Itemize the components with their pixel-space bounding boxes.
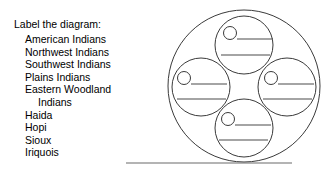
- inner-circle-top: [215, 16, 273, 74]
- inner-circle-group-left: [172, 58, 230, 116]
- diagram-panel: [0, 0, 335, 178]
- inner-circle-group-bottom: [215, 99, 273, 157]
- concept-map-diagram: [0, 0, 335, 178]
- inner-circle-bottom: [215, 99, 273, 157]
- bullet-circle-bottom: [222, 113, 235, 126]
- inner-circle-left: [172, 58, 230, 116]
- inner-circle-right: [258, 58, 316, 116]
- inner-circle-group-top: [215, 16, 273, 74]
- bullet-circle-left: [178, 72, 191, 85]
- inner-circle-group-right: [258, 58, 316, 116]
- bullet-circle-top: [224, 27, 237, 40]
- bullet-circle-right: [265, 72, 278, 85]
